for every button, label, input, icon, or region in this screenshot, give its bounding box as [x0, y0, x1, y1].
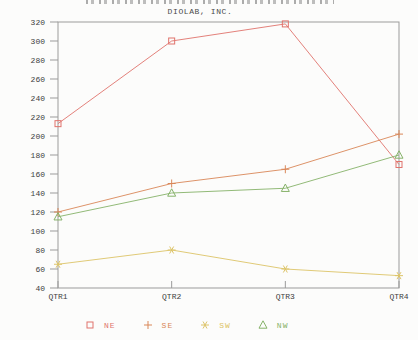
y-tick-label: 100: [31, 227, 46, 236]
plot-svg: 3203002802602402202001801601401201008060…: [0, 0, 418, 340]
x-tick-label: QTR2: [162, 292, 181, 301]
legend-label: SW: [219, 321, 231, 330]
y-tick-label: 80: [35, 246, 45, 255]
y-tick-label: 320: [31, 18, 46, 27]
x-tick-label: QTR1: [48, 292, 67, 301]
legend-label: SE: [162, 321, 174, 330]
y-tick-label: 40: [35, 284, 45, 293]
square-marker-icon: [87, 322, 93, 328]
y-tick-label: 120: [31, 208, 46, 217]
y-tick-label: 240: [31, 94, 46, 103]
legend-label: NW: [277, 321, 289, 330]
plus-legend-icon: [142, 319, 154, 331]
triangle-legend-icon: [257, 319, 269, 331]
series-line-ne: [58, 24, 399, 165]
plot-frame: [58, 22, 399, 288]
y-tick-label: 140: [31, 189, 46, 198]
legend-item-se: SE: [142, 319, 174, 331]
y-tick-label: 180: [31, 151, 46, 160]
legend-item-ne: NE: [84, 319, 116, 331]
y-tick-label: 260: [31, 75, 46, 84]
x-tick-label: QTR4: [389, 292, 408, 301]
y-tick-label: 160: [31, 170, 46, 179]
triangle-marker-icon: [259, 321, 267, 328]
chart-legend: NESESWNW: [84, 318, 288, 332]
series-line-sw: [58, 250, 399, 276]
y-tick-label: 300: [31, 37, 46, 46]
legend-item-nw: NW: [257, 319, 289, 331]
chart-page: DIOLAB, INC. 320300280260240220200180160…: [0, 0, 418, 340]
y-tick-label: 220: [31, 113, 46, 122]
square-legend-icon: [84, 319, 96, 331]
y-tick-label: 200: [31, 132, 46, 141]
y-tick-label: 280: [31, 56, 46, 65]
legend-item-sw: SW: [199, 319, 231, 331]
x-tick-label: QTR3: [276, 292, 295, 301]
star-legend-icon: [199, 319, 211, 331]
legend-label: NE: [104, 321, 116, 330]
series-line-nw: [58, 155, 399, 217]
y-tick-label: 60: [35, 265, 45, 274]
series-line-se: [58, 134, 399, 212]
